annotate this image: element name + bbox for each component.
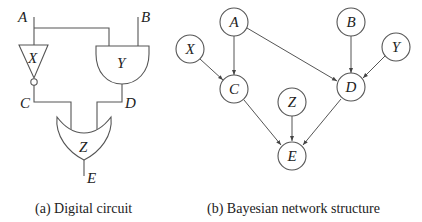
figure: A B X Y C D Z E (a) Digital circuit A B … (0, 0, 422, 222)
node-e: E (278, 142, 306, 170)
wire-a-branch (34, 28, 109, 46)
label-c: C (20, 95, 31, 111)
label-b: B (141, 9, 150, 25)
svg-text:Z: Z (288, 94, 297, 110)
wire-c (34, 85, 71, 130)
node-y: Y (382, 33, 410, 61)
not-gate-bubble (31, 79, 37, 85)
label-d: D (124, 95, 136, 111)
node-c: C (220, 75, 248, 103)
caption-a: (a) Digital circuit (35, 201, 132, 217)
edge-d-e (303, 99, 341, 145)
label-z: Z (79, 139, 88, 155)
svg-text:E: E (286, 148, 296, 164)
svg-text:C: C (229, 81, 240, 97)
label-e: E (86, 170, 96, 186)
svg-text:X: X (184, 41, 195, 57)
edge-c-e (244, 100, 281, 145)
edge-y-d (363, 56, 385, 78)
node-b: B (337, 8, 365, 36)
edge-x-c (200, 59, 223, 80)
bayesian-network: A B X Y C D Z E (b) Bayesian (176, 8, 410, 217)
node-z: Z (278, 88, 306, 116)
label-x: X (27, 50, 38, 66)
svg-text:D: D (345, 79, 357, 95)
digital-circuit: A B X Y C D Z E (a) Digital circuit (17, 9, 150, 217)
edge-a-d (247, 28, 337, 81)
svg-text:A: A (228, 14, 239, 30)
caption-b: (b) Bayesian network structure (207, 201, 380, 217)
node-x: X (176, 35, 204, 63)
node-d: D (337, 73, 365, 101)
svg-text:B: B (346, 14, 355, 30)
node-a: A (220, 8, 248, 36)
label-a: A (17, 9, 28, 25)
